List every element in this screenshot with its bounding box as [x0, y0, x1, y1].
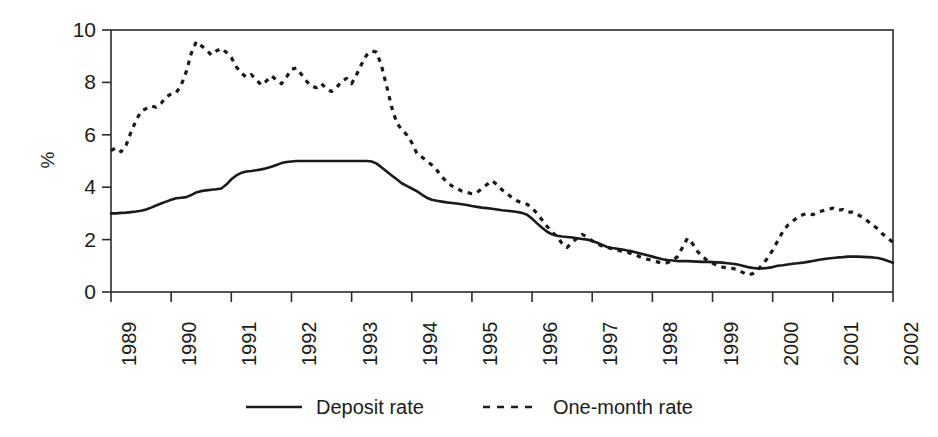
series-line-one-month-rate: [111, 42, 893, 275]
legend-item-one-month-rate: One-month rate: [482, 396, 693, 419]
chart-legend: Deposit rate One-month rate: [0, 386, 938, 428]
legend-label-deposit-rate: Deposit rate: [316, 396, 424, 419]
plot-frame: [111, 30, 893, 292]
legend-swatch-solid-line: [245, 402, 303, 412]
axes-frame: [102, 30, 893, 302]
legend-item-deposit-rate: Deposit rate: [245, 396, 424, 419]
legend-swatch-dashed-line: [482, 402, 540, 412]
interest-rate-line-chart: % 0246810 198919901991199219931994199519…: [0, 0, 938, 437]
data-series-group: [111, 42, 893, 275]
plot-area: [0, 0, 938, 437]
legend-label-one-month-rate: One-month rate: [553, 396, 693, 419]
series-line-deposit-rate: [111, 161, 893, 268]
